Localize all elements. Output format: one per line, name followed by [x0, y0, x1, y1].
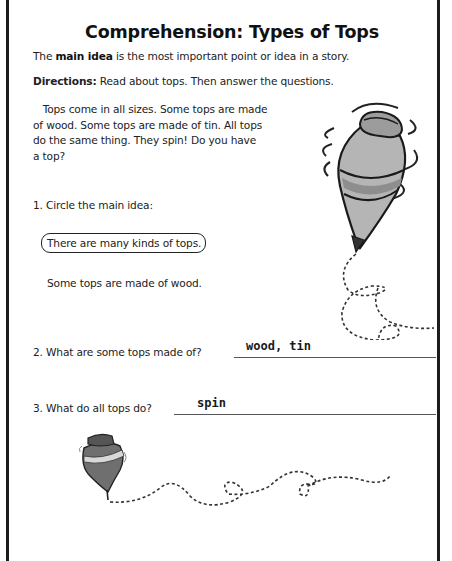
page-border-left — [6, 0, 9, 561]
answer-line-2[interactable] — [234, 357, 436, 358]
directions: Directions: Read about tops. Then answer… — [33, 75, 334, 87]
answer-2[interactable]: wood, tin — [246, 339, 311, 353]
answer-3[interactable]: spin — [197, 396, 226, 410]
passage-line: do the same thing. They spin! Do you hav… — [33, 133, 313, 149]
question-3-prompt: 3. What do all tops do? — [33, 402, 152, 414]
intro-prefix: The — [33, 50, 55, 62]
question-2-prompt: 2. What are some tops made of? — [33, 346, 201, 358]
directions-text: Read about tops. Then answer the questio… — [97, 75, 334, 87]
directions-label: Directions: — [33, 75, 97, 87]
small-spinning-top-icon — [70, 430, 420, 510]
passage-line: Tops come in all sizes. Some tops are ma… — [33, 102, 313, 118]
main-idea-option-circled[interactable]: There are many kinds of tops. — [41, 233, 206, 253]
option-text: There are many kinds of tops. — [47, 237, 201, 249]
passage-line: of wood. Some tops are made of tin. All … — [33, 118, 313, 134]
page-title: Comprehension: Types of Tops — [0, 22, 452, 42]
title-text: Comprehension: Types of Tops — [85, 22, 379, 42]
reading-passage: Tops come in all sizes. Some tops are ma… — [33, 102, 313, 164]
option-text: Some tops are made of wood. — [47, 277, 202, 289]
intro-term: main idea — [55, 50, 112, 62]
question-1-prompt: 1. Circle the main idea: — [33, 199, 153, 211]
trail-continuation — [360, 280, 440, 340]
answer-line-3[interactable] — [174, 414, 436, 415]
passage-line: a top? — [33, 149, 313, 165]
intro-suffix: is the most important point or idea in a… — [113, 50, 349, 62]
intro-sentence: The main idea is the most important poin… — [33, 50, 349, 62]
main-idea-option[interactable]: Some tops are made of wood. — [47, 277, 202, 289]
